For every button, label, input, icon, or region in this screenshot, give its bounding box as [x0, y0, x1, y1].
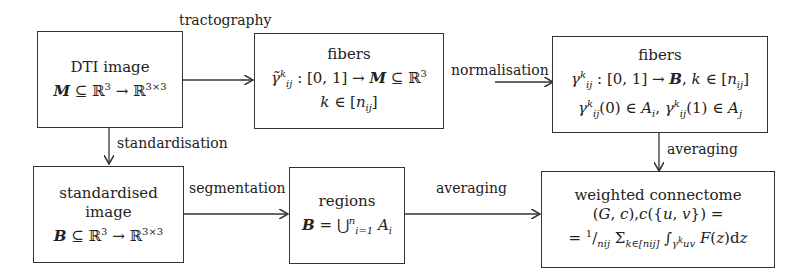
- edge-label-averaging-regions: averaging: [436, 180, 507, 196]
- box-formula: (G, c),c({u, v}) =: [593, 205, 724, 224]
- fibers-normalised-box: fibers γkij : [0, 1] → B, k ∈ [nij] γkij…: [552, 36, 768, 133]
- standardised-image-box: standardised image B ⊆ ℝ3 → ℝ3×3: [33, 166, 184, 263]
- box-title: standardised image: [34, 184, 183, 222]
- regions-box: regions B = ⋃ni=1 Ai: [289, 167, 405, 264]
- box-title: fibers: [327, 45, 370, 64]
- box-title: DTI image: [70, 58, 149, 77]
- edge-label-tractography: tractography: [179, 12, 271, 28]
- fibers-raw-box: fibers γ̃kij : [0, 1] → M ⊆ ℝ3 k ∈ [nij]: [254, 33, 444, 129]
- dti-image-box: DTI image M ⊆ ℝ3 → ℝ3×3: [37, 31, 183, 128]
- box-formula: B ⊆ ℝ3 → ℝ3×3: [54, 222, 163, 246]
- box-formula: B = ⋃ni=1 Ai: [302, 211, 392, 240]
- edge-label-normalisation: normalisation: [451, 62, 549, 78]
- box-formula-2: γkij(0) ∈ Ai, γkij(1) ∈ Aj: [578, 94, 742, 123]
- edge-label-segmentation: segmentation: [189, 180, 286, 196]
- box-title: regions: [319, 192, 376, 211]
- box-formula-2: = 1/nij Σk∈[nij] ∫γkuv F(z)dz: [569, 224, 748, 253]
- edge-label-averaging-fibers: averaging: [667, 141, 738, 157]
- box-formula: M ⊆ ℝ3 → ℝ3×3: [53, 77, 166, 101]
- edge-label-standardisation: standardisation: [117, 135, 228, 151]
- box-formula-2: k ∈ [nij]: [320, 93, 377, 117]
- box-title: fibers: [638, 46, 681, 65]
- weighted-connectome-box: weighted connectome (G, c),c({u, v}) = =…: [541, 171, 775, 268]
- box-formula: γ̃kij : [0, 1] → M ⊆ ℝ3: [271, 64, 427, 93]
- box-formula: γkij : [0, 1] → B, k ∈ [nij]: [571, 65, 749, 94]
- box-title: weighted connectome: [574, 186, 741, 205]
